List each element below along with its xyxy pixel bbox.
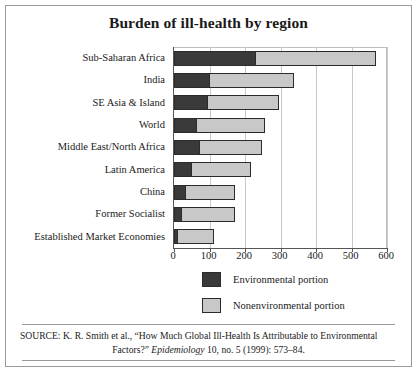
y-axis-label: Middle East/North Africa bbox=[58, 136, 165, 158]
legend-label: Nonenvironmental portion bbox=[233, 300, 345, 311]
bar-segment-environmental bbox=[174, 73, 210, 88]
bar-row bbox=[174, 92, 279, 114]
y-axis-label: Former Socialist bbox=[95, 203, 165, 225]
legend-item: Environmental portion bbox=[202, 272, 328, 287]
bar-segment-nonenvironmental bbox=[191, 162, 251, 177]
source-line-1: SOURCE: K. R. Smith et al., “How Much Gl… bbox=[20, 329, 397, 343]
gridline-600 bbox=[387, 47, 388, 248]
bar-segment-nonenvironmental bbox=[209, 73, 294, 88]
bar-segment-environmental bbox=[174, 140, 200, 155]
legend-swatch bbox=[202, 272, 221, 287]
bar-segment-nonenvironmental bbox=[177, 229, 214, 244]
bar-row bbox=[174, 47, 376, 69]
source-line-2: Factors?” Epidemiology 10, no. 5 (1999):… bbox=[20, 343, 397, 357]
y-axis-label: China bbox=[140, 181, 165, 203]
bar-segment-environmental bbox=[174, 162, 192, 177]
bar-row bbox=[174, 114, 265, 136]
bar-segment-nonenvironmental bbox=[185, 185, 235, 200]
bar-row bbox=[174, 159, 251, 181]
bar-segment-nonenvironmental bbox=[207, 95, 279, 110]
legend-label: Environmental portion bbox=[233, 274, 328, 285]
bar-segment-environmental bbox=[174, 118, 197, 133]
plot-area bbox=[173, 47, 387, 249]
chart-title: Burden of ill-health by region bbox=[6, 14, 411, 32]
source-divider-top bbox=[22, 324, 395, 325]
plot-area-wrapper: Sub-Saharan AfricaIndiaSE Asia & IslandW… bbox=[6, 42, 413, 267]
x-axis-tick-label-300: 300 bbox=[272, 250, 288, 261]
bar-segment-nonenvironmental bbox=[199, 140, 262, 155]
figure-container: Burden of ill-health by region Sub-Sahar… bbox=[5, 5, 412, 367]
y-axis-label: India bbox=[143, 69, 165, 91]
source-line-2-post: 10, no. 5 (1999): 573–84. bbox=[205, 344, 305, 355]
y-axis-label: World bbox=[139, 114, 165, 136]
source-journal-name: Epidemiology bbox=[151, 344, 204, 355]
bar-segment-environmental bbox=[174, 95, 208, 110]
source-divider-bottom bbox=[22, 360, 395, 361]
y-axis-label: SE Asia & Island bbox=[92, 92, 165, 114]
x-axis-tick-label-100: 100 bbox=[201, 250, 217, 261]
bar-segment-nonenvironmental bbox=[181, 207, 235, 222]
bar-segment-nonenvironmental bbox=[255, 51, 376, 66]
bar-row bbox=[174, 226, 214, 248]
x-axis-tick-label-200: 200 bbox=[236, 250, 252, 261]
x-axis-tick-label-0: 0 bbox=[170, 250, 175, 261]
gridline-400 bbox=[316, 47, 317, 248]
x-axis-tick-label-400: 400 bbox=[307, 250, 323, 261]
y-axis-label: Latin America bbox=[105, 159, 165, 181]
x-axis-tick-label-600: 600 bbox=[378, 250, 394, 261]
bar-row bbox=[174, 203, 235, 225]
bar-row bbox=[174, 181, 235, 203]
gridline-500 bbox=[352, 47, 353, 248]
bar-segment-environmental bbox=[174, 51, 256, 66]
bar-row bbox=[174, 136, 262, 158]
legend-item: Nonenvironmental portion bbox=[202, 298, 345, 313]
bar-segment-nonenvironmental bbox=[196, 118, 265, 133]
legend-swatch bbox=[202, 298, 221, 313]
source-note: SOURCE: K. R. Smith et al., “How Much Gl… bbox=[20, 329, 397, 357]
y-axis-label: Sub-Saharan Africa bbox=[82, 47, 165, 69]
source-line-2-pre: Factors?” bbox=[112, 344, 151, 355]
y-axis-category-labels: Sub-Saharan AfricaIndiaSE Asia & IslandW… bbox=[6, 42, 169, 248]
x-axis-tick-label-500: 500 bbox=[343, 250, 359, 261]
y-axis-label: Established Market Economies bbox=[34, 226, 165, 248]
bar-row bbox=[174, 69, 294, 91]
chart-legend: Environmental portionNonenvironmental po… bbox=[6, 272, 413, 322]
